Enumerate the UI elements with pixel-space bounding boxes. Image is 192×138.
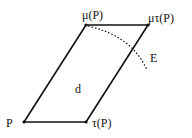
vertex-mu-p bbox=[84, 23, 87, 26]
label-mu-p: μ(P) bbox=[82, 8, 103, 22]
label-curve-e: E bbox=[150, 51, 157, 65]
label-tau-p: τ(P) bbox=[92, 116, 112, 130]
edge-tau-mutau bbox=[86, 25, 148, 122]
parallelogram bbox=[24, 25, 148, 122]
edge-mu-p bbox=[24, 25, 86, 122]
label-interior-d: d bbox=[75, 82, 81, 96]
label-mu-tau-p: μτ(P) bbox=[148, 11, 174, 25]
curve-e bbox=[88, 26, 147, 70]
label-p: P bbox=[6, 116, 13, 130]
vertex-tau-p bbox=[84, 120, 87, 123]
vertex-p bbox=[22, 120, 25, 123]
vertices bbox=[22, 23, 149, 123]
parallelogram-diagram: P τ(P) μ(P) μτ(P) d E bbox=[0, 0, 192, 138]
